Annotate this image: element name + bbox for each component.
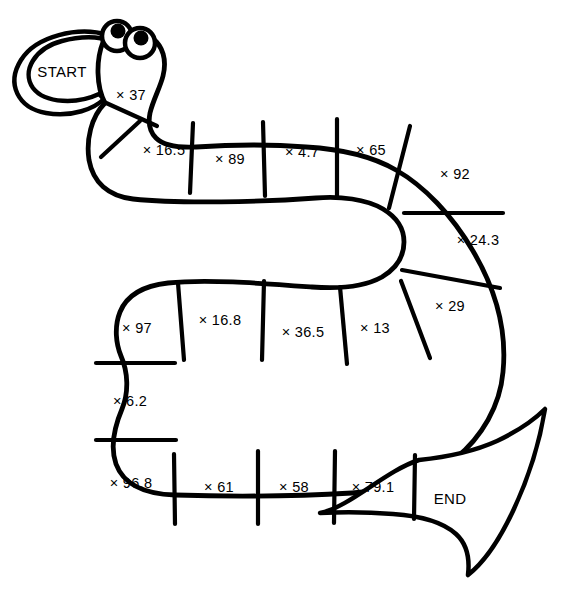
segment-label-5: × 65 — [356, 142, 386, 158]
segment-label-7: × 24.3 — [457, 232, 500, 248]
divider-18 — [414, 455, 415, 519]
segment-label-6: × 92 — [440, 166, 470, 182]
segment-label-17: × 79.1 — [352, 479, 395, 495]
segment-label-3: × 89 — [215, 151, 245, 167]
segment-label-15: × 61 — [204, 479, 234, 495]
snake-maze-illustration — [0, 0, 565, 589]
segment-label-14: × 96.8 — [110, 475, 153, 491]
segment-label-end: END — [434, 490, 467, 507]
segment-label-10: × 36.5 — [282, 324, 325, 340]
segment-label-start: START — [37, 63, 86, 80]
left-eye-pupil-icon — [111, 24, 126, 39]
divider-17 — [334, 451, 335, 523]
snake-body-shape — [88, 32, 504, 496]
segment-label-4: × 4.7 — [285, 144, 319, 160]
divider-11 — [262, 281, 264, 360]
divider-3 — [190, 123, 193, 193]
segment-label-2: × 16.5 — [143, 142, 186, 158]
divider-15 — [174, 454, 175, 524]
right-eye-pupil-icon — [134, 31, 149, 46]
segment-label-9: × 13 — [360, 320, 390, 336]
segment-label-13: × 6.2 — [113, 393, 147, 409]
segment-label-12: × 97 — [122, 320, 152, 336]
segment-label-1: × 37 — [116, 87, 146, 103]
segment-label-8: × 29 — [435, 298, 465, 314]
snake-maze-worksheet: START × 37 × 16.5 × 89 × 4.7 × 65 × 92 ×… — [0, 0, 565, 589]
segment-label-11: × 16.8 — [199, 312, 242, 328]
divider-4 — [263, 122, 265, 196]
segment-label-16: × 58 — [279, 479, 309, 495]
